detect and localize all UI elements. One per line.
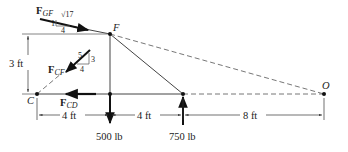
label-o: O [322, 80, 330, 91]
gf-slope-run: 4 [61, 26, 65, 35]
label-c: C [27, 95, 35, 106]
joint-f [108, 32, 112, 36]
gf-slope-hyp: √17 [61, 10, 73, 19]
label-dim-height: 3 ft [9, 58, 23, 69]
horizontal-dimensions [37, 98, 324, 120]
label-fcf: FCF [48, 64, 65, 77]
joint-750 [181, 92, 185, 96]
truss-diagram: F C O FGF √17 1 4 FCF 5 3 4 FCD 500 lb 7… [0, 0, 348, 152]
label-load-500: 500 lb [96, 131, 123, 142]
cf-slope-rise: 3 [91, 55, 95, 64]
gf-slope-rise: 1 [51, 19, 55, 28]
cf-slope-hyp: 5 [78, 51, 82, 60]
member-f-diagonal [110, 34, 183, 94]
label-dim-span2: 4 ft [137, 110, 151, 121]
label-dim-span3: 8 ft [243, 110, 257, 121]
label-f: F [112, 22, 120, 33]
label-fgf: FGF [36, 5, 53, 18]
joint-mid [108, 92, 112, 96]
joint-c [35, 92, 39, 96]
point-o [322, 92, 326, 96]
label-load-750: 750 lb [169, 131, 196, 142]
label-fcd: FCD [60, 97, 78, 110]
cf-slope-run: 4 [80, 65, 84, 74]
label-dim-span1: 4 ft [62, 110, 76, 121]
dashed-f-to-o [110, 34, 324, 94]
truss-members [37, 26, 183, 94]
